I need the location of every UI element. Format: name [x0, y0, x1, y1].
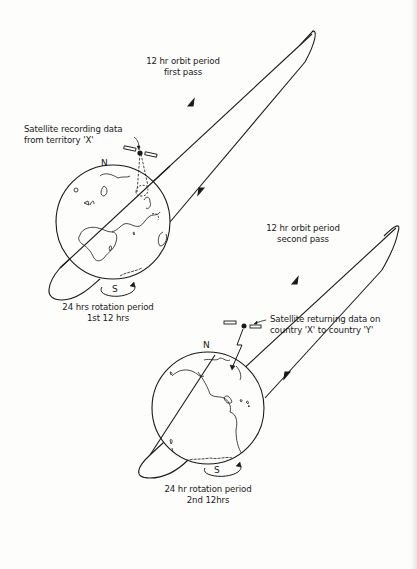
north-pole-label-bottom: N [203, 340, 210, 350]
rotation-label-line2: 1st 12 hrs [62, 313, 153, 324]
orbit-label-line1: 12 hr orbit period [146, 56, 220, 67]
arrow-inbound-icon [198, 188, 204, 195]
satellite-label-line1: Satellite returning data on [270, 314, 380, 325]
orbit-apex [300, 31, 315, 62]
satellite-label-line1: Satellite recording data [24, 124, 122, 135]
orbit-label-line1: 12 hr orbit period [266, 223, 340, 234]
rotation-label-line1: 24 hr rotation period [164, 484, 251, 495]
arrow-outbound-icon [188, 99, 194, 106]
orbit-lower-loop-second [139, 455, 188, 478]
orbit-label-line2: first pass [146, 67, 220, 78]
rotation-label-bottom: 24 hr rotation period 2nd 12hrs [164, 484, 251, 505]
orbit-label-second-pass: 12 hr orbit period second pass [266, 223, 340, 244]
north-pole-label-top: N [101, 158, 108, 168]
satellite-icon-bottom [224, 321, 261, 329]
rotation-arrow-icon-bottom [204, 464, 241, 476]
rotation-label-top: 24 hrs rotation period 1st 12 hrs [62, 302, 153, 323]
bottom-panel [139, 226, 399, 478]
satellite-label-line2: country 'X' to country 'Y' [270, 325, 380, 336]
page-edge-shadow [411, 0, 417, 569]
orbit-label-first-pass: 12 hr orbit period first pass [146, 56, 220, 77]
arrow-outbound-icon-second [292, 277, 298, 284]
rotation-label-line1: 24 hrs rotation period [62, 302, 153, 313]
satellite-returning-label: Satellite returning data on country 'X' … [270, 314, 380, 335]
earth-globe-bottom [152, 352, 264, 464]
orbit-label-line2: second pass [266, 234, 340, 245]
arrow-inbound-icon-second [284, 372, 290, 379]
satellite-recording-label: Satellite recording data from territory … [24, 124, 122, 145]
satellite-label-line2: from territory 'X' [24, 135, 122, 146]
south-pole-label-top: S [112, 284, 118, 294]
satellite-icon-top [124, 146, 157, 157]
rotation-label-line2: 2nd 12hrs [164, 495, 251, 506]
south-pole-label-bottom: S [214, 465, 220, 475]
